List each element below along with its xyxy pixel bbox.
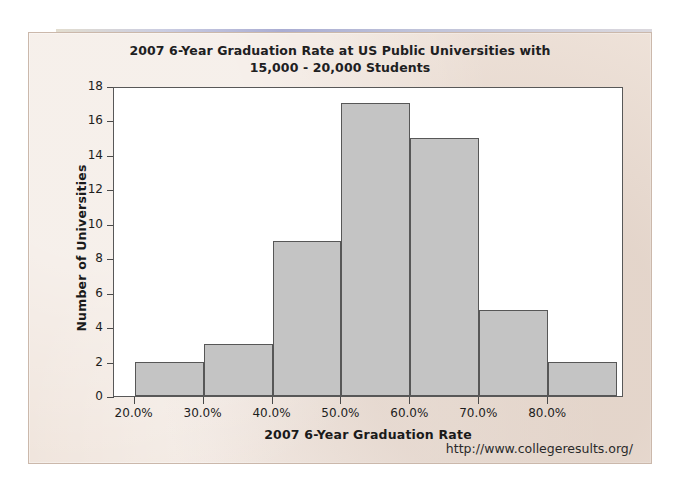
x-axis-title: 2007 6-Year Graduation Rate <box>113 427 623 442</box>
histogram-bar <box>341 103 410 396</box>
x-axis-tick-label: 50.0% <box>309 406 371 420</box>
histogram-bar <box>410 138 479 396</box>
chart-card: 2007 6-Year Graduation Rate at US Public… <box>28 32 652 464</box>
x-axis-tick <box>409 397 410 404</box>
y-axis-tick-label: 12 <box>73 182 103 196</box>
plot-wrapper: Number of Universities 024681012141618 2… <box>29 33 651 463</box>
x-axis-tick <box>272 397 273 404</box>
x-axis-tick <box>478 397 479 404</box>
histogram-bars <box>114 88 622 396</box>
y-axis-tick-label: 0 <box>73 389 103 403</box>
plot-area <box>113 87 623 397</box>
source-url[interactable]: http://www.collegeresults.org/ <box>446 441 633 456</box>
y-axis-tick-label: 14 <box>73 148 103 162</box>
histogram-bar <box>479 310 548 396</box>
histogram-bar <box>135 362 204 396</box>
y-axis-tick <box>107 397 114 398</box>
x-axis-tick-label: 20.0% <box>103 406 165 420</box>
x-axis-tick-label: 30.0% <box>172 406 234 420</box>
y-axis-tick-label: 16 <box>73 113 103 127</box>
y-axis-title: Number of Universities <box>74 148 89 348</box>
x-axis-tick <box>547 397 548 404</box>
y-axis-tick-label: 10 <box>73 217 103 231</box>
y-axis-tick-label: 8 <box>73 251 103 265</box>
y-axis-tick-label: 18 <box>73 79 103 93</box>
x-axis-tick-label: 40.0% <box>241 406 303 420</box>
x-axis-tick <box>203 397 204 404</box>
y-axis-tick-label: 4 <box>73 320 103 334</box>
x-axis-tick <box>340 397 341 404</box>
y-axis-tick-label: 6 <box>73 286 103 300</box>
x-axis-tick-label: 60.0% <box>378 406 440 420</box>
histogram-bar <box>204 344 273 396</box>
histogram-bar <box>548 362 617 396</box>
x-axis-tick <box>134 397 135 404</box>
x-axis-tick-label: 70.0% <box>447 406 509 420</box>
y-axis-tick-label: 2 <box>73 355 103 369</box>
x-axis-tick-label: 80.0% <box>516 406 578 420</box>
histogram-bar <box>273 241 342 396</box>
